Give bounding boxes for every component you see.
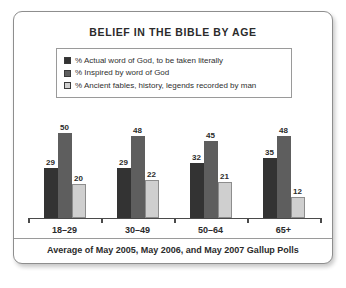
bar[interactable]: 50 [58,124,72,218]
legend-swatch-icon [64,57,71,64]
legend-swatch-icon [64,70,71,77]
bar-rect [117,168,131,217]
x-axis-tick [28,218,30,223]
x-axis-category-label: 65+ [276,225,291,235]
legend-swatch-icon [64,82,71,89]
bar[interactable]: 29 [44,124,58,218]
bar[interactable]: 45 [204,124,218,218]
x-axis-tick [320,218,322,223]
footer-divider [14,238,332,239]
bar-rect [58,133,72,218]
chart-legend: % Actual word of God, to be taken litera… [56,48,292,98]
bar-group: 29502018–29 [28,124,101,218]
x-axis-tick [101,218,103,223]
bar-rect [145,180,159,217]
bar-group: 32452150–64 [174,124,247,218]
bar-value-label: 50 [60,123,69,132]
x-axis-tick [174,218,176,223]
bar-value-label: 22 [147,170,156,179]
bar-value-label: 21 [220,172,229,181]
bar[interactable]: 21 [218,124,232,218]
chart-plot-area: 29502018–2929482230–4932452150–643548126… [28,124,320,219]
footer-note: Average of May 2005, May 2006, and May 2… [14,245,332,255]
bar-rect [218,182,232,218]
bar[interactable]: 29 [117,124,131,218]
bar[interactable]: 35 [263,124,277,218]
bar-value-label: 12 [293,187,302,196]
bar[interactable]: 32 [190,124,204,218]
x-axis-tick [247,218,249,223]
chart-card: BELIEF IN THE BIBLE BY AGE % Actual word… [13,11,333,264]
bar-rect [277,136,291,218]
bar-group-bars: 294822 [117,124,159,218]
bar-rect [44,168,58,217]
bar[interactable]: 48 [277,124,291,218]
page-title: BELIEF IN THE BIBLE BY AGE [14,26,332,38]
bar-value-label: 29 [119,158,128,167]
x-axis-category-label: 18–29 [52,225,77,235]
bar[interactable]: 12 [291,124,305,218]
bar[interactable]: 20 [72,124,86,218]
bar-rect [131,136,145,218]
bar-value-label: 32 [192,153,201,162]
bar-group-bars: 295020 [44,124,86,218]
bar-value-label: 45 [206,131,215,140]
bar-value-label: 48 [279,126,288,135]
bar-value-label: 48 [133,126,142,135]
bar-rect [204,141,218,218]
bar-value-label: 20 [74,174,83,183]
x-axis-category-label: 50–64 [198,225,223,235]
x-axis-category-label: 30–49 [125,225,150,235]
legend-item[interactable]: % Ancient fables, history, legends recor… [64,80,284,92]
legend-item[interactable]: % Actual word of God, to be taken litera… [64,55,284,67]
bar[interactable]: 48 [131,124,145,218]
legend-item-label: % Ancient fables, history, legends recor… [75,81,256,91]
legend-item-label: % Inspired by word of God [75,68,169,78]
bar[interactable]: 22 [145,124,159,218]
bar-rect [291,197,305,217]
bar-rect [190,163,204,217]
legend-item-label: % Actual word of God, to be taken litera… [75,56,223,66]
bar-group: 35481265+ [247,124,320,218]
bar-group-bars: 324521 [190,124,232,218]
bar-value-label: 29 [46,158,55,167]
bar-group: 29482230–49 [101,124,174,218]
bar-value-label: 35 [265,148,274,157]
bar-group-bars: 354812 [263,124,305,218]
bar-rect [72,184,86,218]
legend-item[interactable]: % Inspired by word of God [64,67,284,79]
bar-rect [263,158,277,218]
